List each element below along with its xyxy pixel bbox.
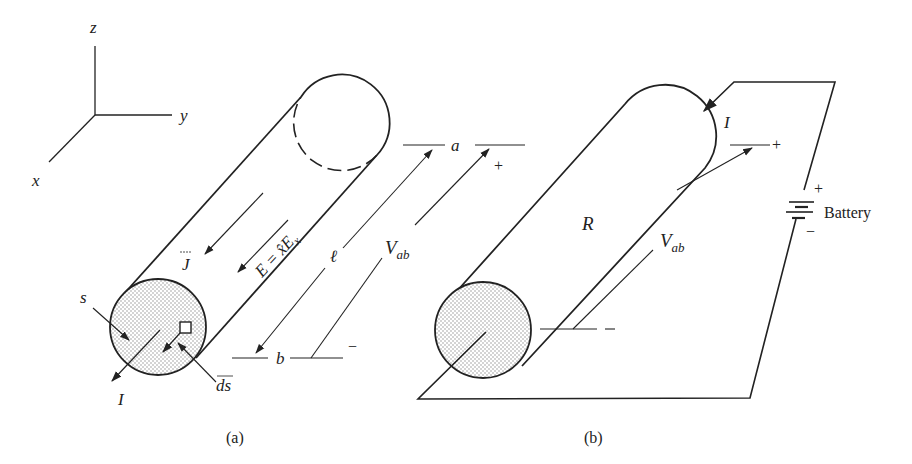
x-axis-label: x bbox=[31, 171, 40, 190]
voltage-line-lower-b bbox=[573, 250, 653, 329]
plus-sign-a: + bbox=[494, 157, 503, 174]
current-label-a: I bbox=[117, 390, 125, 409]
battery-minus-label: − bbox=[806, 223, 815, 240]
panel-b-circuit bbox=[418, 82, 835, 399]
caption-a: (a) bbox=[226, 429, 244, 447]
circuit-wire-top bbox=[704, 82, 835, 190]
area-element-label: ds bbox=[216, 376, 232, 395]
field-label: E = x̂Ex bbox=[250, 228, 304, 283]
voltage-line-upper-b bbox=[677, 148, 752, 190]
length-arrow-down bbox=[256, 268, 325, 353]
back-end-arc-hidden bbox=[294, 97, 377, 171]
surface-label: s bbox=[80, 288, 87, 307]
field-equation: E = x̂Ex bbox=[250, 228, 304, 283]
battery-icon bbox=[786, 202, 814, 218]
voltage-line-lower bbox=[311, 258, 382, 358]
terminal-b-label: b bbox=[276, 349, 285, 368]
terminal-a-label: a bbox=[451, 136, 460, 155]
area-element-square bbox=[180, 322, 191, 333]
resistor-cross-section bbox=[435, 282, 531, 378]
caption-b: (b) bbox=[584, 429, 603, 447]
y-axis-label: y bbox=[178, 106, 188, 125]
length-label: ℓ bbox=[330, 247, 337, 266]
z-axis-label: z bbox=[89, 18, 97, 37]
current-density-label: J bbox=[182, 255, 191, 274]
back-end-arc-solid bbox=[301, 75, 390, 155]
diagram-canvas: z y x J E = x̂Ex s ds I bbox=[0, 0, 912, 464]
panel-a-cylinder bbox=[93, 75, 390, 382]
current-density-arrow bbox=[205, 193, 263, 254]
plus-sign-b: + bbox=[772, 136, 781, 153]
minus-sign-a: − bbox=[348, 338, 357, 355]
voltage-line-upper bbox=[415, 149, 489, 225]
panel-b-labels: R I + Vab + Battery − bbox=[581, 113, 871, 255]
x-axis bbox=[49, 115, 95, 162]
coordinate-axes: z y x bbox=[31, 18, 188, 190]
voltage-label-a: Vab bbox=[385, 237, 410, 262]
current-label-b: I bbox=[723, 113, 731, 132]
length-arrow-up bbox=[343, 150, 432, 248]
battery-label: Battery bbox=[824, 204, 871, 222]
voltage-label-b: Vab bbox=[660, 230, 685, 255]
resistance-label: R bbox=[581, 213, 594, 234]
battery-plus-label: + bbox=[814, 180, 823, 197]
